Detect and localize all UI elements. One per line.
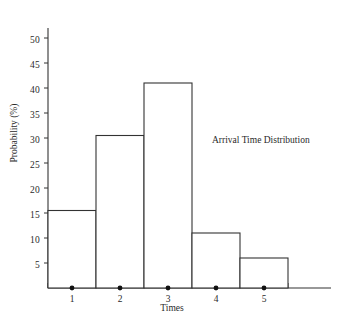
chart-page: 50 45 40 35 30 25 20 15 10 5 1 2 3 4 5 T… [0,0,340,330]
bar-1 [48,211,96,289]
y-tick-label-40: 40 [18,85,40,95]
x-tick-label-1: 1 [62,294,82,304]
y-tick-marks [44,38,48,263]
x-tick-label-5: 5 [254,294,274,304]
y-tick-label-20: 20 [18,185,40,195]
marker-3 [166,286,171,291]
bar-5 [240,258,288,288]
x-axis-label: Times [140,303,204,313]
bar-3 [144,83,192,288]
y-tick-label-10: 10 [18,235,40,245]
y-tick-label-15: 15 [18,210,40,220]
y-tick-label-50: 50 [18,35,40,45]
marker-5 [262,286,267,291]
marker-2 [118,286,123,291]
x-tick-label-4: 4 [206,294,226,304]
y-tick-label-45: 45 [18,60,40,70]
bar-4 [192,233,240,288]
y-axis-label: Probability (%) [9,91,19,175]
y-tick-label-5: 5 [18,260,40,270]
histogram-svg [0,0,340,330]
y-tick-label-35: 35 [18,110,40,120]
x-tick-label-2: 2 [110,294,130,304]
bar-series [48,83,288,288]
marker-1 [70,286,75,291]
bar-2 [96,136,144,289]
marker-4 [214,286,219,291]
y-tick-label-25: 25 [18,160,40,170]
y-tick-label-30: 30 [18,135,40,145]
chart-annotation: Arrival Time Distribution [212,135,310,146]
plot-area: 50 45 40 35 30 25 20 15 10 5 1 2 3 4 5 T… [0,0,340,330]
